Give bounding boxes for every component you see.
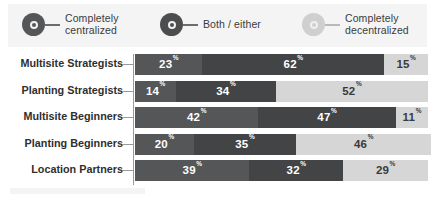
percent-sign: % [416, 107, 422, 114]
bar-segment[interactable]: 23% [135, 54, 202, 75]
legend-connector-line [45, 24, 60, 26]
axis-tick [122, 144, 133, 145]
segment-value: 14% [146, 85, 165, 97]
legend-label: Completely decentralized [345, 13, 409, 36]
chart-row: Multisite Beginners42%47%11% [0, 107, 435, 128]
bar-segment[interactable]: 29% [343, 160, 428, 181]
chart-row: Planting Strategists14%34%52% [0, 81, 435, 102]
stacked-bar-chart: Multisite Strategists23%62%15%Planting S… [0, 52, 435, 188]
chart-figure: Completely centralized Both / either Com… [0, 0, 435, 198]
legend-item-completely-centralized[interactable]: Completely centralized [22, 13, 119, 36]
bar-segment[interactable]: 35% [194, 134, 297, 155]
percent-sign: % [173, 54, 179, 61]
donut-marker-light-icon [302, 13, 325, 36]
percent-sign: % [390, 160, 396, 167]
legend-label: Completely centralized [65, 13, 119, 36]
category-label: Multisite Strategists [20, 57, 123, 69]
percent-sign: % [297, 54, 303, 61]
segment-value: 42% [187, 111, 206, 123]
stacked-bar: 23%62%15% [135, 54, 428, 75]
percent-sign: % [196, 160, 202, 167]
stacked-bar: 39%32%29% [135, 160, 428, 181]
percent-sign: % [410, 54, 416, 61]
bar-segment[interactable]: 15% [384, 54, 428, 75]
segment-value: 20% [155, 138, 174, 150]
percent-sign: % [356, 80, 362, 87]
segment-value: 39% [183, 164, 202, 176]
chart-row: Location Partners39%32%29% [0, 160, 435, 181]
segment-value: 34% [216, 85, 235, 97]
legend-item-both-either[interactable]: Both / either [160, 13, 261, 36]
axis-tick [122, 64, 133, 65]
legend-item-completely-decentralized[interactable]: Completely decentralized [302, 13, 409, 36]
percent-sign: % [331, 107, 337, 114]
legend-connector-line [325, 24, 340, 26]
stacked-bar: 42%47%11% [135, 107, 428, 128]
percent-sign: % [368, 133, 374, 140]
donut-marker-medium-icon [160, 13, 183, 36]
segment-value: 47% [317, 111, 336, 123]
bar-segment[interactable]: 11% [396, 107, 428, 128]
bar-segment[interactable]: 34% [176, 81, 276, 102]
category-label: Location Partners [31, 163, 123, 175]
bar-segment[interactable]: 14% [135, 81, 176, 102]
footer-strip [10, 188, 145, 194]
bar-segment[interactable]: 52% [276, 81, 428, 102]
axis-tick [122, 170, 133, 171]
segment-value: 23% [159, 58, 178, 70]
segment-value: 32% [287, 164, 306, 176]
chart-legend: Completely centralized Both / either Com… [8, 4, 427, 47]
category-label: Planting Strategists [22, 84, 123, 96]
bar-segment[interactable]: 46% [296, 134, 431, 155]
stacked-bar: 14%34%52% [135, 81, 428, 102]
donut-marker-dark-icon [22, 13, 45, 36]
segment-value: 62% [284, 58, 303, 70]
category-label: Planting Beginners [25, 137, 123, 149]
chart-row: Planting Beginners20%35%46% [0, 134, 435, 155]
stacked-bar: 20%35%46% [135, 134, 428, 155]
bar-segment[interactable]: 32% [249, 160, 343, 181]
bar-segment[interactable]: 62% [202, 54, 384, 75]
segment-value: 35% [235, 138, 254, 150]
legend-label: Both / either [203, 19, 261, 31]
percent-sign: % [300, 160, 306, 167]
chart-row: Multisite Strategists23%62%15% [0, 54, 435, 75]
percent-sign: % [249, 133, 255, 140]
bar-segment[interactable]: 42% [135, 107, 258, 128]
segment-value: 46% [354, 138, 373, 150]
segment-value: 15% [396, 58, 415, 70]
bar-segment[interactable]: 20% [135, 134, 194, 155]
percent-sign: % [160, 80, 166, 87]
segment-value: 29% [376, 164, 395, 176]
legend-connector-line [183, 24, 198, 26]
segment-value: 11% [403, 111, 422, 123]
segment-value: 52% [342, 85, 361, 97]
axis-tick [122, 117, 133, 118]
axis-tick [122, 91, 133, 92]
percent-sign: % [168, 133, 174, 140]
percent-sign: % [201, 107, 207, 114]
bar-segment[interactable]: 39% [135, 160, 249, 181]
category-label: Multisite Beginners [23, 110, 123, 122]
bar-segment[interactable]: 47% [258, 107, 396, 128]
percent-sign: % [230, 80, 236, 87]
